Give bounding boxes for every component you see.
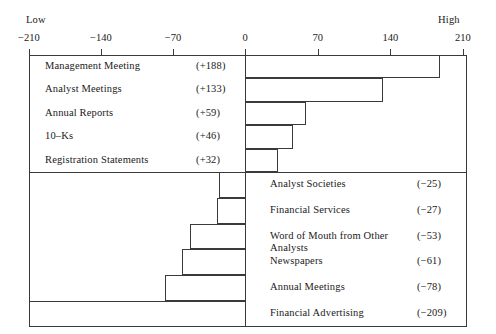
bar-positive (245, 149, 278, 172)
bar-negative (190, 224, 245, 250)
row-label: Financial Services (270, 204, 350, 216)
row-value: (−78) (417, 281, 441, 293)
row-label: Financial Advertising (270, 307, 364, 319)
bar-negative (165, 275, 245, 301)
row-value: (−25) (417, 178, 441, 190)
bar-positive (245, 125, 293, 148)
bar-negative (182, 249, 245, 275)
section-divider (29, 172, 467, 173)
axis-tick-label: 0 (242, 32, 247, 43)
axis-tick-label: 70 (312, 32, 323, 43)
row-value: (−209) (417, 307, 447, 319)
bar-positive (245, 102, 306, 125)
row-label: Word of Mouth from Other Analysts (270, 230, 388, 254)
tornado-bar-chart: Low High −210−140−70070140210 Management… (0, 0, 496, 334)
row-value: (+133) (196, 83, 226, 95)
row-value: (−61) (417, 255, 441, 267)
bar-positive (245, 55, 440, 78)
axis-low-label: Low (26, 14, 46, 25)
axis-tick-label: 210 (455, 32, 471, 43)
row-value: (+32) (196, 154, 220, 166)
bar-positive (245, 78, 383, 101)
row-label: Annual Reports (45, 107, 113, 119)
row-label: Annual Meetings (270, 281, 345, 293)
row-value: (−53) (417, 230, 441, 242)
row-value: (+188) (196, 60, 226, 72)
row-label: 10–Ks (45, 130, 73, 142)
axis-tick-label: −140 (90, 32, 112, 43)
bar-negative (30, 301, 245, 327)
row-label: Registration Statements (45, 154, 148, 166)
row-value: (+59) (196, 107, 220, 119)
row-value: (+46) (196, 130, 220, 142)
axis-tick-label: 140 (382, 32, 398, 43)
axis-tick-label: −70 (165, 32, 181, 43)
row-label: Analyst Societies (270, 178, 346, 190)
axis-high-label: High (438, 14, 460, 25)
bar-negative (217, 198, 245, 224)
bar-negative (219, 172, 245, 198)
row-label: Management Meeting (45, 60, 140, 72)
axis-tick-label: −210 (18, 32, 40, 43)
row-label: Newspapers (270, 255, 323, 267)
row-label: Analyst Meetings (45, 83, 122, 95)
row-value: (−27) (417, 204, 441, 216)
